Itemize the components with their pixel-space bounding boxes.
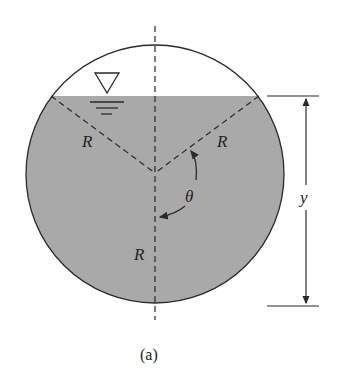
figure-caption: (a) xyxy=(140,346,158,364)
label-radius-right: R xyxy=(216,132,228,151)
pipe-flow-diagram: R R R θ y (a) xyxy=(0,0,343,383)
label-angle-theta: θ xyxy=(185,187,193,206)
liquid-region xyxy=(20,96,300,316)
label-depth-y: y xyxy=(298,188,308,207)
label-radius-left: R xyxy=(81,132,93,151)
label-radius-vertical: R xyxy=(133,245,145,264)
